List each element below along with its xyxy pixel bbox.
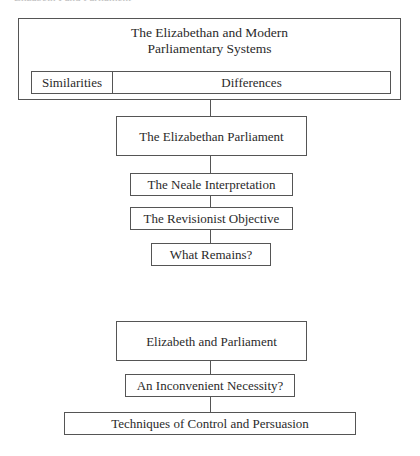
comparison-row: Similarities Differences xyxy=(31,71,391,94)
connector xyxy=(210,397,211,412)
techniques-box: Techniques of Control and Persuasion xyxy=(64,412,356,435)
connector xyxy=(210,100,211,116)
connector xyxy=(210,361,211,374)
running-header: Elizabeth I and Parliament xyxy=(14,0,194,3)
elizabeth-and-parliament-box: Elizabeth and Parliament xyxy=(116,321,307,361)
connector xyxy=(210,230,211,243)
systems-title-line1: The Elizabethan and Modern xyxy=(19,25,400,41)
similarities-cell: Similarities xyxy=(32,72,113,93)
connector xyxy=(210,196,211,207)
systems-title: The Elizabethan and Modern Parliamentary… xyxy=(19,25,400,57)
revisionist-objective-box: The Revisionist Objective xyxy=(130,207,293,230)
connector xyxy=(210,156,211,173)
elizabethan-parliament-box: The Elizabethan Parliament xyxy=(116,116,307,156)
differences-cell: Differences xyxy=(113,72,390,93)
neale-interpretation-box: The Neale Interpretation xyxy=(130,173,293,196)
inconvenient-necessity-box: An Inconvenient Necessity? xyxy=(125,374,295,397)
systems-comparison-box: The Elizabethan and Modern Parliamentary… xyxy=(18,18,401,100)
what-remains-box: What Remains? xyxy=(151,243,271,266)
systems-title-line2: Parliamentary Systems xyxy=(19,41,400,57)
